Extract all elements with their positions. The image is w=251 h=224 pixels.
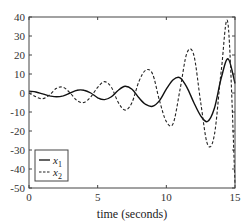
x-tick-label: 5 [95,191,101,203]
x-tick-label: 10 [161,191,173,203]
y-tick-label: 10 [14,68,26,80]
x-axis-label: time (seconds) [97,207,167,221]
x-tick-label: 15 [230,191,242,203]
y-tick-label: -30 [10,144,25,156]
y-tick-label: 0 [20,87,26,99]
series-x1 [29,59,235,122]
legend-box [35,150,68,181]
legend: x1x2 [35,150,68,181]
y-tick-label: 40 [14,11,26,23]
y-tick-label: 20 [14,49,26,61]
y-tick-label: 30 [14,30,26,42]
y-tick-label: -50 [10,182,25,194]
y-tick-label: -20 [10,125,25,137]
y-tick-label: -40 [10,163,25,175]
x-tick-label: 0 [26,191,32,203]
y-tick-label: -10 [10,106,25,118]
line-chart: 403020100-10-20-30-40-50 051015 time (se… [0,0,251,224]
